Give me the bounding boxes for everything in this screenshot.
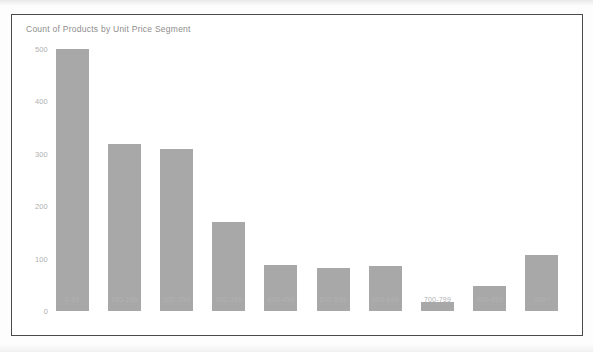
plot-area: 0100200300400500 0-99100-199200-299300-3…	[12, 15, 582, 335]
x-axis-tick-label: 200-299	[163, 296, 190, 303]
page-edge-top	[0, 0, 593, 6]
bar-group[interactable]: 600-699	[359, 37, 411, 311]
bar[interactable]	[160, 149, 193, 311]
bar-group[interactable]: 400-499	[255, 37, 307, 311]
bar-group[interactable]: 500-599	[307, 37, 359, 311]
x-axis-tick-label: 300-399	[215, 296, 242, 303]
x-axis-tick-label: 600-699	[372, 296, 399, 303]
bar-group[interactable]: 300-399	[203, 37, 255, 311]
bar[interactable]	[56, 49, 89, 311]
x-axis-tick-label: 900+	[534, 296, 551, 303]
bar[interactable]	[369, 266, 402, 311]
x-axis-tick-label: 700-799	[424, 296, 451, 303]
bar-group[interactable]: 200-299	[150, 37, 202, 311]
x-axis-tick-label: 100-199	[111, 296, 138, 303]
x-axis-tick-label: 400-499	[267, 296, 294, 303]
x-axis-tick-label: 0-99	[65, 296, 80, 303]
page-edge-bottom	[0, 344, 593, 352]
x-axis-tick-label: 800-899	[476, 296, 503, 303]
bar-group[interactable]: 100-199	[98, 37, 150, 311]
bar[interactable]	[264, 265, 297, 311]
bar-group[interactable]: 900+	[516, 37, 568, 311]
bar-group[interactable]: 700-799	[411, 37, 463, 311]
bar-group[interactable]: 0-99	[46, 37, 98, 311]
bar-group[interactable]: 800-899	[464, 37, 516, 311]
x-axis-tick-label: 500-599	[320, 296, 347, 303]
chart-card: Count of Products by Unit Price Segment …	[11, 14, 583, 336]
bar[interactable]	[317, 268, 350, 311]
bar-series: 0-99100-199200-299300-399400-499500-5996…	[46, 15, 568, 335]
bar[interactable]	[108, 144, 141, 311]
chart-screenshot: Count of Products by Unit Price Segment …	[0, 0, 593, 352]
